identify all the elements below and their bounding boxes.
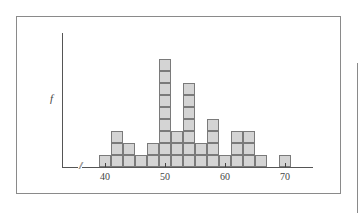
histogram-box <box>171 155 183 167</box>
histogram-box <box>159 95 171 107</box>
histogram-box <box>159 59 171 71</box>
histogram-box <box>111 155 123 167</box>
histogram-box <box>171 131 183 143</box>
histogram-box <box>147 143 159 155</box>
histogram-box <box>207 119 219 131</box>
histogram-box <box>159 107 171 119</box>
histogram-box <box>231 131 243 143</box>
histogram-box <box>195 155 207 167</box>
histogram-box <box>183 143 195 155</box>
histogram-box <box>207 143 219 155</box>
x-tick-label: 50 <box>155 171 175 182</box>
x-tick <box>225 163 226 167</box>
histogram-box <box>243 143 255 155</box>
histogram-box <box>207 155 219 167</box>
histogram-box <box>255 155 267 167</box>
histogram-box <box>159 83 171 95</box>
histogram-box <box>111 143 123 155</box>
histogram-box <box>183 131 195 143</box>
histogram-box <box>159 119 171 131</box>
histogram-box <box>159 143 171 155</box>
histogram-box <box>183 107 195 119</box>
histogram-box <box>195 143 207 155</box>
histogram-box <box>171 143 183 155</box>
histogram-box <box>243 155 255 167</box>
histogram-box <box>243 131 255 143</box>
histogram-box <box>183 155 195 167</box>
histogram-box <box>123 155 135 167</box>
histogram-box <box>111 131 123 143</box>
x-tick-label: 40 <box>95 171 115 182</box>
histogram-box <box>159 131 171 143</box>
histogram-box <box>123 143 135 155</box>
histogram-box <box>135 155 147 167</box>
histogram-box <box>159 71 171 83</box>
histogram-box <box>231 155 243 167</box>
x-tick <box>165 163 166 167</box>
x-tick-label: 70 <box>275 171 295 182</box>
histogram-bars: 40506070 <box>0 0 359 213</box>
histogram-box <box>183 119 195 131</box>
histogram-box <box>231 143 243 155</box>
histogram-box <box>183 95 195 107</box>
x-tick <box>285 163 286 167</box>
x-tick <box>105 163 106 167</box>
histogram-box <box>207 131 219 143</box>
histogram-box <box>183 83 195 95</box>
histogram-box <box>147 155 159 167</box>
x-tick-label: 60 <box>215 171 235 182</box>
